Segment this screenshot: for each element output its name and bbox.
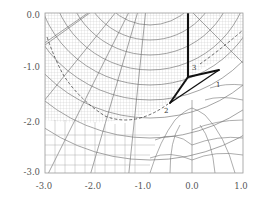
y-tick-2: -2.0 (24, 117, 40, 127)
x-tick-4: 1.0 (234, 181, 248, 191)
x-tick-3: 0.0 (185, 181, 199, 191)
x-tick-2: -1.0 (135, 181, 151, 191)
y-axis: 0.0 -1.0 -2.0 -3.0 (24, 10, 40, 177)
vertex-label-3: 3 (192, 64, 196, 72)
x-tick-1: -2.0 (85, 181, 101, 191)
vertex-label-2: 2 (164, 107, 168, 115)
y-tick-0: 0.0 (26, 10, 40, 20)
x-axis: -3.0 -2.0 -1.0 0.0 1.0 (36, 181, 248, 191)
vertex-label-1: 1 (216, 81, 220, 89)
conformal-map-figure: 3 1 2 0.0 -1.0 -2.0 -3.0 -3.0 -2.0 -1.0 … (0, 0, 262, 203)
y-tick-3: -3.0 (24, 167, 40, 177)
y-tick-1: -1.0 (24, 62, 40, 72)
x-tick-0: -3.0 (36, 181, 52, 191)
